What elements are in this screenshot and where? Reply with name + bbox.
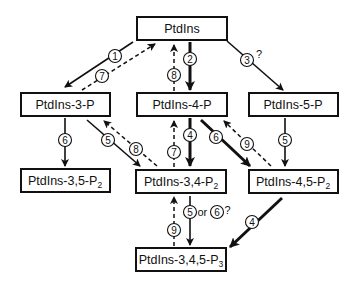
- node-subscript: 2: [325, 181, 330, 191]
- svg-text:9: 9: [244, 139, 250, 150]
- svg-text:PtdIns-4-P: PtdIns-4-P: [152, 98, 211, 112]
- node-subscript: 2: [97, 180, 102, 190]
- svg-text:2: 2: [187, 54, 193, 65]
- label-7-mid: 7: [168, 146, 181, 159]
- edge-3-ptdins-to-ptdins5p: [227, 41, 283, 90]
- label-1: 1: [109, 50, 122, 63]
- label-5-right: 5: [279, 134, 292, 147]
- label-6-left: 6: [59, 134, 72, 147]
- svg-text:1: 1: [112, 51, 118, 62]
- node-label: PtdIns-3,4-P: [144, 175, 213, 189]
- svg-text:6: 6: [213, 132, 219, 143]
- svg-text:PtdIns-3,4-P2: PtdIns-3,4-P2: [144, 175, 218, 191]
- label-8-top: 8: [168, 69, 181, 82]
- node-ptdins-3-5-p2: PtdIns-3,5-P2: [21, 169, 110, 192]
- svg-text:5: 5: [187, 207, 193, 218]
- node-label: PtdIns-5-P: [263, 98, 322, 112]
- svg-text:4: 4: [249, 217, 255, 228]
- node-label: PtdIns-4,5-P: [256, 175, 325, 189]
- node-ptdins-4-p: PtdIns-4-P: [137, 93, 227, 116]
- label-9-mid: 9: [241, 138, 254, 151]
- label-2: 2: [184, 53, 197, 66]
- label-5-bottom: 5: [184, 206, 197, 219]
- svg-text:6: 6: [214, 207, 220, 218]
- phosphoinositide-pathway-diagram: PtdIns PtdIns-3-P PtdIns-4-P PtdIns-5-P …: [0, 0, 355, 286]
- node-ptdins-3-4-p2: PtdIns-3,4-P2: [136, 170, 226, 193]
- node-subscript: 2: [213, 181, 218, 191]
- svg-text:PtdIns-3-P: PtdIns-3-P: [35, 98, 94, 112]
- node-ptdins-4-5-p2: PtdIns-4,5-P2: [249, 170, 338, 193]
- node-label: PtdIns-4-P: [152, 98, 211, 112]
- svg-text:PtdIns-3,4,5-P3: PtdIns-3,4,5-P3: [139, 253, 224, 269]
- label-6-bottom: 6: [211, 206, 224, 219]
- label-6-question: ?: [225, 204, 231, 216]
- svg-text:6: 6: [62, 135, 68, 146]
- svg-text:5: 5: [105, 135, 111, 146]
- node-label: PtdIns-3-P: [35, 98, 94, 112]
- node-ptdins-5-p: PtdIns-5-P: [249, 93, 338, 116]
- label-3-question: ?: [256, 48, 262, 60]
- label-8-mid: 8: [130, 143, 143, 156]
- node-label: PtdIns: [164, 22, 199, 36]
- node-label: PtdIns-3,4,5-P: [139, 253, 219, 267]
- svg-text:4: 4: [187, 130, 193, 141]
- label-4-mid: 4: [184, 129, 197, 142]
- svg-text:9: 9: [171, 225, 177, 236]
- svg-text:PtdIns-3,5-P2: PtdIns-3,5-P2: [28, 174, 102, 190]
- svg-text:8: 8: [133, 144, 139, 155]
- svg-text:8: 8: [171, 70, 177, 81]
- label-6-right: 6: [210, 131, 223, 144]
- node-ptdins: PtdIns: [137, 17, 227, 40]
- svg-text:PtdIns-4,5-P2: PtdIns-4,5-P2: [256, 175, 330, 191]
- node-ptdins-3-p: PtdIns-3-P: [21, 93, 110, 116]
- svg-text:PtdIns: PtdIns: [164, 22, 199, 36]
- label-or: or: [198, 206, 208, 218]
- label-4-bottom: 4: [246, 216, 259, 229]
- svg-text:PtdIns-5-P: PtdIns-5-P: [263, 98, 322, 112]
- svg-text:7: 7: [99, 71, 105, 82]
- label-9-bottom: 9: [168, 224, 181, 237]
- svg-text:3: 3: [244, 55, 250, 66]
- svg-text:7: 7: [171, 147, 177, 158]
- node-ptdins-3-4-5-p3: PtdIns-3,4,5-P3: [136, 248, 226, 271]
- svg-text:5: 5: [282, 135, 288, 146]
- label-3: 3: [241, 54, 254, 67]
- node-subscript: 3: [219, 259, 224, 269]
- label-5-left: 5: [102, 134, 115, 147]
- label-7-top: 7: [96, 70, 109, 83]
- node-label: PtdIns-3,5-P: [28, 174, 97, 188]
